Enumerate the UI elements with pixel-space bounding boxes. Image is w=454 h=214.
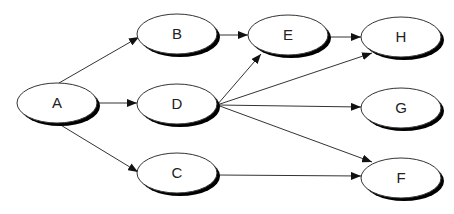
node-g: G xyxy=(361,88,444,131)
edge-d-to-f xyxy=(217,105,372,162)
node-h: H xyxy=(361,17,444,60)
node-label: A xyxy=(52,94,62,111)
edge-d-to-h xyxy=(217,53,372,105)
node-label: E xyxy=(283,26,293,43)
node-label: F xyxy=(396,169,405,186)
node-label: H xyxy=(396,28,407,45)
nodes-layer: ABDCEHGF xyxy=(17,14,444,201)
node-e: E xyxy=(248,15,331,58)
node-b: B xyxy=(137,14,220,57)
edge-d-to-g xyxy=(217,105,361,107)
edge-c-to-f xyxy=(217,175,361,176)
node-label: C xyxy=(172,164,183,181)
node-a: A xyxy=(17,83,100,126)
node-d: D xyxy=(137,84,220,127)
node-label: B xyxy=(172,25,182,42)
node-f: F xyxy=(361,158,444,201)
directed-graph-diagram: ABDCEHGF xyxy=(0,0,454,214)
edge-a-to-b xyxy=(59,37,139,83)
edge-a-to-c xyxy=(59,124,138,172)
node-c: C xyxy=(137,153,220,196)
node-label: D xyxy=(172,95,183,112)
node-label: G xyxy=(395,99,407,116)
